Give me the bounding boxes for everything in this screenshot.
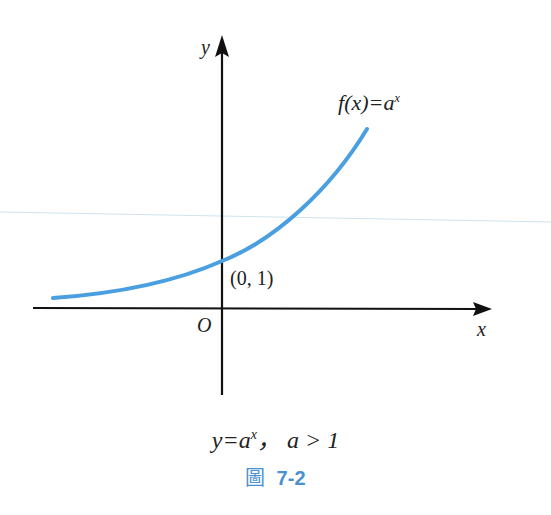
- origin-label: O: [197, 314, 211, 337]
- point-label: (0, 1): [230, 267, 273, 290]
- figure-char: 圖: [245, 467, 265, 489]
- figure-num: 7-2: [277, 467, 306, 489]
- function-body: (x)=a: [344, 90, 394, 115]
- scan-line: [0, 212, 551, 222]
- caption: y=ax， a > 1: [0, 420, 551, 455]
- function-exponent: x: [394, 91, 399, 105]
- x-axis: [33, 308, 480, 309]
- caption-y: y=a: [212, 427, 251, 453]
- y-axis-label: y: [201, 36, 210, 59]
- figure-number: 圖 7-2: [0, 462, 551, 491]
- caption-condition: ， a > 1: [257, 427, 339, 453]
- x-axis-label: x: [477, 318, 486, 341]
- function-label: f(x)=ax: [338, 90, 400, 116]
